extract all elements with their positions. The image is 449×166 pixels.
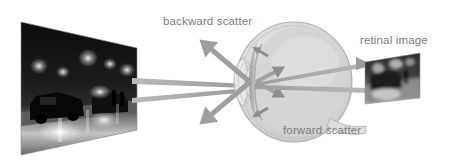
scatter-diagram-figure: backward scatter retinal image forward s… [0, 0, 449, 166]
forward-scatter-label: forward scatter [283, 125, 361, 137]
retinal-image-label: retinal image [360, 35, 428, 47]
backward-scatter-label: backward scatter [163, 16, 252, 28]
retinal-image-photo [365, 53, 420, 104]
night-street-scene-photo [21, 22, 137, 155]
